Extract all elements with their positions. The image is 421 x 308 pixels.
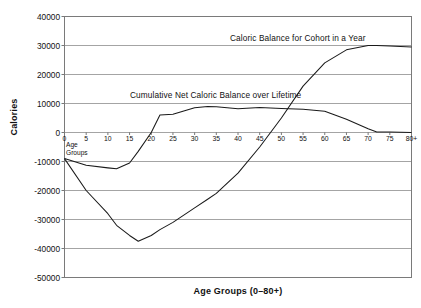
x-axis-ticks — [62, 17, 412, 278]
x-tick-label: 65 — [334, 136, 358, 143]
x-tick-label: 60 — [313, 136, 337, 143]
x-tick-label: 15 — [118, 136, 142, 143]
age-groups-origin-note: Age Groups — [66, 141, 88, 157]
x-tick-label: 40 — [226, 136, 250, 143]
x-tick-label: 80+ — [400, 136, 421, 143]
plot-border — [65, 17, 412, 278]
annual-series-label: Caloric Balance for Cohort in a Year — [230, 33, 366, 43]
x-tick-label: 25 — [161, 136, 185, 143]
x-tick-label: 30 — [183, 136, 207, 143]
x-tick-label: 75 — [378, 136, 402, 143]
x-tick-label: 45 — [248, 136, 272, 143]
x-tick-label: 10 — [96, 136, 120, 143]
x-tick-label: 50 — [269, 136, 293, 143]
plot-area — [0, 0, 421, 308]
x-axis-title: Age Groups (0–80+) — [64, 286, 412, 296]
x-tick-label: 5 — [74, 136, 98, 143]
x-tick-label: 20 — [139, 136, 163, 143]
x-tick-label: 0 — [53, 136, 77, 143]
x-tick-label: 70 — [356, 136, 380, 143]
chart-root: Calories 40000 30000 20000 10000 0 -1000… — [0, 0, 421, 308]
cumulative-series-label: Cumulative Net Caloric Balance over Life… — [130, 90, 301, 100]
x-tick-label: 55 — [291, 136, 315, 143]
x-tick-label: 35 — [204, 136, 228, 143]
gridlines — [65, 46, 412, 249]
